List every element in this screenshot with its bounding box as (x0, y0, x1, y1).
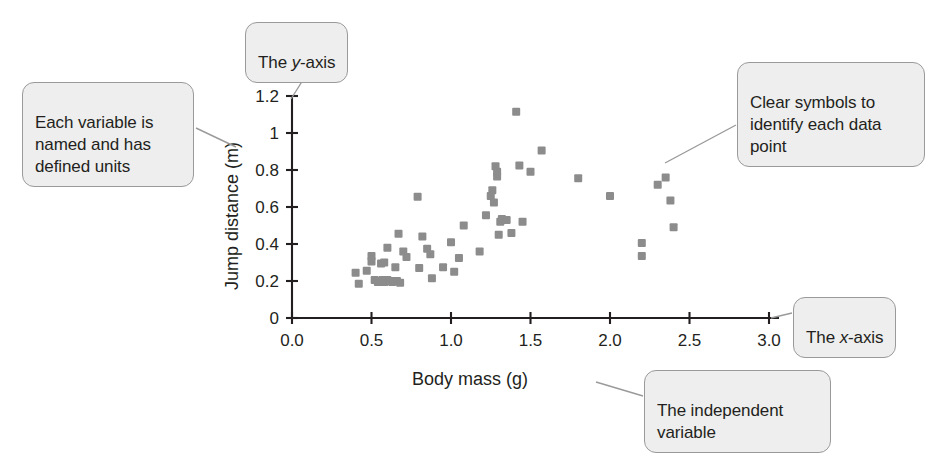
data-point-marker (402, 253, 410, 261)
callout-variable-units: Each variable is named and has defined u… (22, 82, 194, 187)
data-point-marker (426, 250, 434, 258)
annotated-scatter-figure: 0.00.51.01.52.02.53.000.20.40.60.811.2 J… (0, 0, 943, 461)
callout-independent-variable: The independent variable (644, 370, 831, 453)
data-point-marker (488, 186, 496, 194)
data-point-marker (666, 197, 674, 205)
data-point-marker (519, 218, 527, 226)
data-point-marker (538, 147, 546, 155)
x-axis-tick-label: 2.5 (678, 331, 702, 350)
data-point-marker (396, 279, 404, 287)
callout-clear-symbols: Clear symbols to identify each data poin… (737, 62, 925, 167)
data-point-marker (439, 263, 447, 271)
callout-independent-variable-text: The independent variable (657, 401, 783, 442)
callout-clear-symbols-text: Clear symbols to identify each data poin… (750, 93, 881, 156)
data-point-marker (455, 254, 463, 262)
data-point-marker (638, 252, 646, 260)
data-point-marker (638, 239, 646, 247)
data-point-marker (391, 263, 399, 271)
callout-y-axis: The y-axis (245, 22, 348, 83)
data-point-marker (383, 244, 391, 252)
data-point-marker (606, 192, 614, 200)
x-axis-tick-label: 1.5 (519, 331, 543, 350)
callout-x-axis: The x-axis (793, 297, 896, 358)
data-point-marker (490, 198, 498, 206)
data-point-marker (527, 168, 535, 176)
data-point-marker (495, 231, 503, 239)
leader-line-variable (196, 128, 236, 147)
axis-tick-labels: 0.00.51.01.52.02.53.000.20.40.60.811.2 (255, 87, 780, 350)
y-axis-tick-label: 0.4 (255, 235, 279, 254)
callout-y-axis-text: The y-axis (258, 53, 335, 72)
data-point-markers (352, 108, 678, 288)
x-axis-tick-label: 0.0 (280, 331, 304, 350)
leader-line-independent (596, 382, 643, 396)
plot-axes (286, 96, 779, 324)
data-point-marker (512, 108, 520, 116)
data-point-marker (493, 172, 501, 180)
data-point-marker (414, 193, 422, 201)
y-axis-tick-label: 0.6 (255, 198, 279, 217)
leader-line-symbols (665, 125, 736, 163)
x-axis-tick-label: 3.0 (757, 331, 781, 350)
x-axis-tick-label: 2.0 (598, 331, 622, 350)
data-point-marker (415, 264, 423, 272)
leader-line-x-axis (771, 313, 792, 318)
data-point-marker (574, 174, 582, 182)
data-point-marker (380, 259, 388, 267)
data-point-marker (503, 216, 511, 224)
data-point-marker (368, 258, 376, 266)
data-point-marker (363, 267, 371, 275)
data-point-marker (654, 181, 662, 189)
y-axis-tick-label: 0.2 (255, 272, 279, 291)
data-point-marker (450, 268, 458, 276)
data-point-marker (507, 229, 515, 237)
data-point-marker (355, 280, 363, 288)
y-axis-tick-label: 1 (270, 124, 279, 143)
callout-x-axis-text: The x-axis (806, 328, 883, 347)
y-axis-title: Jump distance (m) (222, 142, 242, 290)
y-axis-tick-label: 1.2 (255, 87, 279, 106)
data-point-marker (447, 238, 455, 246)
data-point-marker (515, 161, 523, 169)
data-point-marker (662, 173, 670, 181)
data-point-marker (670, 223, 678, 231)
y-axis-tick-label: 0.8 (255, 161, 279, 180)
data-point-marker (395, 230, 403, 238)
data-point-marker (476, 247, 484, 255)
x-axis-title: Body mass (g) (412, 369, 528, 389)
data-point-marker (460, 222, 468, 230)
x-axis-tick-label: 1.0 (439, 331, 463, 350)
data-point-marker (352, 269, 360, 277)
data-point-marker (428, 274, 436, 282)
data-point-marker (482, 211, 490, 219)
data-point-marker (418, 233, 426, 241)
callout-variable-units-text: Each variable is named and has defined u… (35, 113, 153, 176)
x-axis-tick-label: 0.5 (360, 331, 384, 350)
y-axis-tick-label: 0 (270, 309, 279, 328)
